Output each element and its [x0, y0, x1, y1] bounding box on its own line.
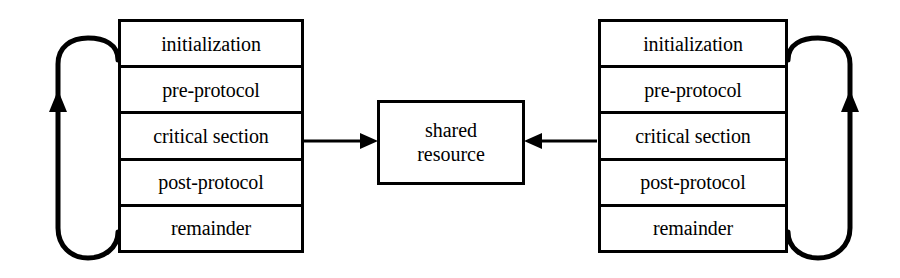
process-column-right: initialization pre-protocol critical sec…: [598, 19, 788, 253]
phase-cell-right-initialization: initialization: [601, 22, 785, 68]
loop-arrow-right: [788, 38, 859, 258]
phase-cell-right-pre-protocol: pre-protocol: [601, 68, 785, 114]
phase-cell-right-critical-section: critical section: [601, 114, 785, 160]
connector-left-to-shared: [304, 133, 378, 149]
shared-resource-box: shared resource: [377, 100, 525, 185]
shared-resource-line-1: shared: [425, 119, 477, 143]
phase-cell-left-pre-protocol: pre-protocol: [121, 68, 301, 114]
phase-label: critical section: [153, 126, 269, 146]
process-column-left: initialization pre-protocol critical sec…: [118, 19, 304, 253]
connector-right-arrowhead: [524, 133, 542, 149]
phase-label: post-protocol: [158, 172, 263, 192]
phase-cell-right-post-protocol: post-protocol: [601, 161, 785, 207]
diagram-canvas: initialization pre-protocol critical sec…: [0, 0, 900, 278]
phase-cell-left-post-protocol: post-protocol: [121, 161, 301, 207]
phase-cell-right-remainder: remainder: [601, 207, 785, 250]
connector-left-arrowhead: [360, 133, 378, 149]
phase-cell-left-initialization: initialization: [121, 22, 301, 68]
phase-label: critical section: [635, 126, 751, 146]
phase-label: remainder: [653, 218, 733, 238]
phase-label: post-protocol: [640, 172, 745, 192]
phase-cell-left-remainder: remainder: [121, 207, 301, 250]
shared-resource-line-2: resource: [417, 143, 485, 167]
loop-right-arrowhead: [841, 90, 859, 112]
phase-label: pre-protocol: [162, 80, 260, 100]
phase-label: initialization: [161, 34, 261, 54]
loop-left-arrowhead: [49, 90, 67, 112]
phase-label: initialization: [643, 34, 743, 54]
phase-label: pre-protocol: [644, 80, 742, 100]
connector-right-to-shared: [524, 133, 597, 149]
loop-arrow-left: [49, 38, 118, 258]
phase-label: remainder: [171, 218, 251, 238]
phase-cell-left-critical-section: critical section: [121, 114, 301, 160]
